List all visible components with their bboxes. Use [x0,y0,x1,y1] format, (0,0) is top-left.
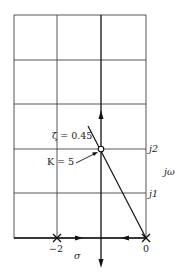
zeta-line [88,126,146,238]
pointer-arrowhead-icon [92,152,98,156]
minus2-label: −2 [49,243,63,254]
root-locus-diagram: ζ = 0.45 K = 5 j2 jω j1 −2 0 σ [0,0,183,273]
arrow-left-icon [121,236,129,241]
j1-label: j1 [147,188,158,199]
j2-label: j2 [147,143,158,154]
jomega-label: jω [162,166,175,177]
gain-pointer [76,153,96,163]
zeta-label: ζ = 0.45 [52,130,92,141]
grid [14,15,146,238]
operating-point-marker [98,146,104,152]
arrow-right-icon [75,236,83,241]
arrow-down-icon [99,259,104,268]
arrow-up-icon [99,110,104,119]
zero-label: 0 [143,243,149,254]
sigma-label: σ [74,250,81,261]
gain-label: K = 5 [47,156,74,167]
